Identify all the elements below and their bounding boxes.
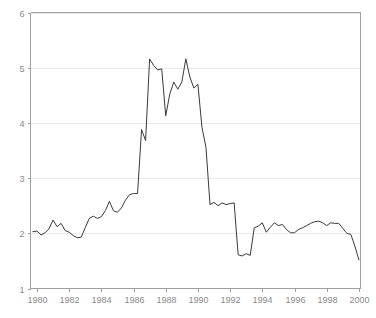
x-tick-label-1998: 1998: [317, 295, 337, 305]
x-tick-labels-group: 1980198219841986198819901992199419961998…: [27, 295, 369, 305]
x-tick-label-1994: 1994: [252, 295, 272, 305]
x-tick-label-1990: 1990: [188, 295, 208, 305]
x-tick-label-1982: 1982: [59, 295, 79, 305]
gridlines-group: [31, 14, 361, 234]
y-tick-label-5: 5: [19, 64, 24, 74]
y-tick-labels-group: 123456: [19, 9, 24, 295]
x-tick-label-1986: 1986: [124, 295, 144, 305]
x-tick-label-1980: 1980: [27, 295, 47, 305]
y-tick-label-1: 1: [19, 285, 24, 295]
y-tick-label-3: 3: [19, 174, 24, 184]
chart-container: 123456 198019821984198619881990199219941…: [0, 0, 376, 318]
line-chart: 123456 198019821984198619881990199219941…: [0, 0, 376, 318]
x-tick-label-1984: 1984: [91, 295, 111, 305]
y-tick-label-2: 2: [19, 229, 24, 239]
y-axis-group: [28, 13, 31, 290]
y-tick-label-4: 4: [19, 119, 24, 129]
y-tick-label-6: 6: [19, 9, 24, 19]
data-series-group: [33, 59, 359, 260]
x-tick-label-1996: 1996: [285, 295, 305, 305]
x-tick-label-1988: 1988: [156, 295, 176, 305]
x-tick-label-2000: 2000: [349, 295, 369, 305]
data-line-series-1: [33, 59, 359, 260]
x-axis-group: [31, 13, 361, 292]
x-tick-label-1992: 1992: [220, 295, 240, 305]
